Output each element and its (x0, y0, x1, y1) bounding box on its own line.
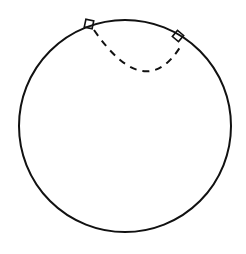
dashed-arc (94, 30, 182, 71)
diagram-canvas (0, 0, 246, 254)
great-circle-outline (19, 20, 231, 232)
sphere-diagram (0, 0, 246, 254)
right-angle-left-marker (84, 19, 93, 28)
